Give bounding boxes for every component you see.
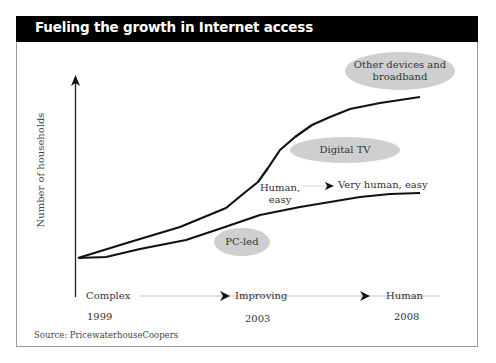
human-easy-line1: Human, [255, 182, 305, 194]
y-axis-label: Number of households [35, 113, 46, 228]
stage-human: Human [386, 290, 423, 302]
stage-improving: Improving [235, 290, 287, 302]
stage-complex: Complex [86, 290, 130, 302]
human-easy-line2: easy [255, 194, 305, 206]
bubble-other-devices-label: Other devices and broadband [345, 59, 455, 83]
source-note: Source: PricewaterhouseCoopers [34, 330, 178, 340]
year-1999: 1999 [87, 311, 112, 323]
arrow-to-very-human-icon [325, 182, 334, 190]
bubble-other-line1: Other devices and [345, 59, 455, 71]
bubble-pc-led-label: PC-led [214, 236, 270, 248]
bubble-digital-tv-label: Digital TV [290, 144, 400, 156]
human-easy-annotation: Human, easy [255, 182, 305, 206]
year-2003: 2003 [245, 313, 270, 325]
very-human-easy-annotation: Very human, easy [338, 179, 428, 191]
bubble-other-line2: broadband [345, 71, 455, 83]
year-2008: 2008 [394, 311, 419, 323]
